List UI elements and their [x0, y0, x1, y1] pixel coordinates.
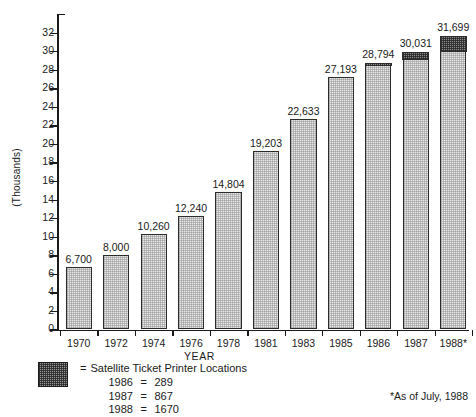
bar: 31,699 — [440, 51, 466, 330]
bar-segment-satellite — [365, 63, 392, 66]
x-tick-mark — [210, 330, 211, 336]
legend-body: Satellite Ticket Printer Locations 1986=… — [90, 362, 247, 417]
x-tick-label: 1976 — [179, 337, 202, 349]
y-tick-label: 24 — [42, 100, 54, 113]
legend-row-equals: = — [140, 390, 154, 404]
legend-equals-sign: = — [80, 362, 86, 375]
x-tick-label: 1972 — [104, 337, 127, 349]
x-axis-title: YEAR — [184, 350, 215, 362]
bar-value-label: 27,193 — [325, 63, 357, 75]
bar: 30,031 — [403, 59, 429, 330]
bar-value-label: 10,260 — [138, 220, 170, 232]
x-tick-mark — [135, 330, 136, 336]
x-tick-label: 1983 — [292, 337, 315, 349]
x-tick-mark — [435, 330, 436, 336]
x-tick-label: 1988* — [440, 337, 467, 349]
x-tick-mark — [285, 330, 286, 336]
y-tick-label: 4 — [48, 285, 54, 298]
y-tick-label: 18 — [42, 155, 54, 168]
x-tick-mark — [472, 330, 473, 336]
y-tick-label: 6 — [48, 267, 54, 280]
y-tick-label: 8 — [48, 248, 54, 261]
y-tick-label: 28 — [42, 63, 54, 76]
bar: 8,000 — [103, 255, 129, 329]
bar-value-label: 22,633 — [287, 105, 319, 117]
legend: = Satellite Ticket Printer Locations 198… — [38, 362, 247, 417]
bar: 6,700 — [66, 267, 92, 329]
bar-chart: (Thousands) 0246810121416182022242628303… — [0, 0, 476, 417]
y-tick-label: 20 — [42, 137, 54, 150]
bar: 10,260 — [141, 234, 167, 329]
x-tick-label: 1985 — [329, 337, 352, 349]
plot-area: 02468101214161820222426283032 6,7008,000… — [57, 14, 469, 331]
y-tick-label: 12 — [42, 211, 54, 224]
bar: 27,193 — [328, 77, 354, 329]
x-tick-label: 1974 — [142, 337, 165, 349]
y-tick-label: 22 — [42, 118, 54, 131]
legend-title: Satellite Ticket Printer Locations — [90, 362, 247, 375]
bar: 22,633 — [290, 119, 316, 329]
x-tick-mark — [397, 330, 398, 336]
y-tick-label: 10 — [42, 230, 54, 243]
bar: 12,240 — [178, 216, 204, 330]
y-tick-label: 16 — [42, 174, 54, 187]
x-tick-mark — [172, 330, 173, 336]
x-tick-mark — [360, 330, 361, 336]
legend-row-value: 867 — [154, 390, 172, 404]
legend-row: 1987=867 — [108, 390, 247, 404]
legend-row: 1988=1670 — [108, 403, 247, 417]
y-tick-label: 30 — [42, 44, 54, 57]
y-axis-line — [57, 14, 59, 331]
bar: 19,203 — [253, 151, 279, 329]
x-tick-mark — [247, 330, 248, 336]
y-tick-label: 32 — [42, 26, 54, 39]
bar-value-label: 30,031 — [400, 37, 432, 49]
legend-row-year: 1987 — [108, 390, 140, 404]
legend-row-year: 1988 — [108, 403, 140, 417]
legend-row-value: 289 — [154, 376, 172, 390]
legend-row-equals: = — [140, 403, 154, 417]
y-axis-top-cap — [57, 14, 65, 15]
x-tick-label: 1986 — [367, 337, 390, 349]
y-axis-title: (Thousands) — [11, 128, 22, 228]
bar-value-label: 12,240 — [175, 202, 207, 214]
legend-row-equals: = — [140, 376, 154, 390]
bar-value-label: 8,000 — [103, 241, 129, 253]
legend-rows: 1986=2891987=8671988=1670 — [90, 376, 247, 417]
x-tick-label: 1987 — [404, 337, 427, 349]
legend-row-value: 1670 — [154, 403, 178, 417]
bar: 14,804 — [215, 192, 241, 329]
legend-row: 1986=289 — [108, 376, 247, 390]
bar-value-label: 19,203 — [250, 137, 282, 149]
legend-swatch-satellite — [38, 362, 68, 387]
y-tick-label: 26 — [42, 81, 54, 94]
x-tick-label: 1970 — [67, 337, 90, 349]
x-axis-line — [57, 330, 469, 332]
y-tick-label: 0 — [48, 322, 54, 335]
y-tick-label: 2 — [48, 304, 54, 317]
bar-value-label: 31,699 — [437, 21, 469, 33]
bar-value-label: 14,804 — [212, 178, 244, 190]
x-tick-mark — [322, 330, 323, 336]
footnote: *As of July, 1988 — [390, 390, 468, 402]
bar: 28,794 — [365, 65, 391, 329]
bar-value-label: 28,794 — [362, 48, 394, 60]
x-tick-label: 1978 — [217, 337, 240, 349]
legend-row-year: 1986 — [108, 376, 140, 390]
x-tick-label: 1981 — [254, 337, 277, 349]
bar-segment-satellite — [402, 52, 429, 60]
bar-value-label: 6,700 — [66, 253, 92, 265]
x-tick-mark — [60, 330, 61, 336]
y-tick-label: 14 — [42, 193, 54, 206]
x-tick-mark — [97, 330, 98, 336]
bar-segment-satellite — [440, 36, 467, 51]
